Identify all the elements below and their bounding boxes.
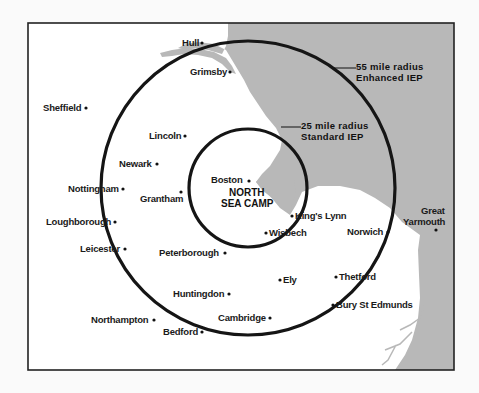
ring-inner-label-line1: 25 mile radius xyxy=(301,120,369,131)
town-dot-lincoln xyxy=(183,134,186,137)
town-dot-ely xyxy=(278,278,281,281)
ring-outer-label-line2: Enhanced IEP xyxy=(356,72,423,83)
town-label-cambridge: Cambridge xyxy=(218,312,266,323)
center-label-line1: NORTH xyxy=(229,187,265,198)
town-label-ely: Ely xyxy=(283,274,298,285)
town-label-boston: Boston xyxy=(211,174,243,185)
town-dot-hull xyxy=(200,41,203,44)
town-label-bedford: Bedford xyxy=(163,326,198,337)
town-label-newark: Newark xyxy=(119,158,153,169)
town-label-great-yarmouth-line1: Great xyxy=(421,205,446,216)
town-dot-grimsby xyxy=(228,70,231,73)
town-label-kings-lynn: King's Lynn xyxy=(295,210,347,221)
town-label-grimsby: Grimsby xyxy=(190,66,228,77)
town-label-hull: Hull xyxy=(182,37,199,48)
town-dot-peterborough xyxy=(223,251,226,254)
town-dot-thetford xyxy=(334,275,337,278)
map: 55 mile radius Enhanced IEP 25 mile radi… xyxy=(0,0,479,393)
ring-outer-label-line1: 55 mile radius xyxy=(356,61,424,72)
town-dot-nottingham xyxy=(121,187,124,190)
town-dot-newark xyxy=(155,162,158,165)
town-dot-great-yarmouth xyxy=(434,228,437,231)
town-label-nottingham: Nottingham xyxy=(68,183,119,194)
town-dot-bedford xyxy=(200,330,203,333)
town-dot-boston xyxy=(247,179,250,182)
town-label-great-yarmouth-line2: Yarmouth xyxy=(403,216,446,227)
town-label-bury-st-edmunds: Bury St Edmunds xyxy=(336,299,413,310)
town-dot-northampton xyxy=(152,318,155,321)
town-label-northampton: Northampton xyxy=(91,314,149,325)
town-dot-leicester xyxy=(123,247,126,250)
town-dot-loughborough xyxy=(113,220,116,223)
town-dot-cambridge xyxy=(268,316,271,319)
town-label-thetford: Thetford xyxy=(339,271,376,282)
town-label-huntingdon: Huntingdon xyxy=(173,288,225,299)
ring-inner-label-line2: Standard IEP xyxy=(301,131,364,142)
town-label-sheffield: Sheffield xyxy=(43,102,82,113)
town-dot-bury-st-edmunds xyxy=(331,303,334,306)
town-dot-kings-lynn xyxy=(290,214,293,217)
town-label-wisbech: Wisbech xyxy=(269,227,307,238)
town-label-lincoln: Lincoln xyxy=(149,130,182,141)
center-label-line2: SEA CAMP xyxy=(221,198,274,209)
town-label-peterborough: Peterborough xyxy=(159,247,219,258)
town-label-leicester: Leicester xyxy=(80,243,120,254)
town-dot-norwich xyxy=(386,230,389,233)
town-label-loughborough: Loughborough xyxy=(46,216,112,227)
town-dot-huntingdon xyxy=(227,292,230,295)
town-dot-sheffield xyxy=(84,106,87,109)
town-dot-wisbech xyxy=(264,231,267,234)
town-label-norwich: Norwich xyxy=(347,226,383,237)
town-label-grantham: Grantham xyxy=(140,193,183,204)
